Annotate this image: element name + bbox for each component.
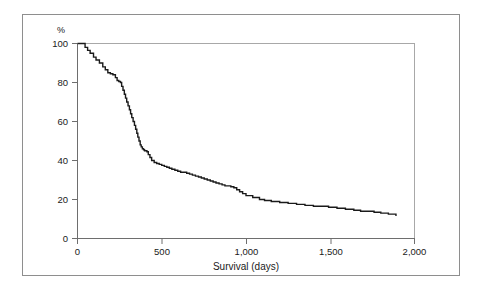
y-tick-label-0: 0	[63, 233, 68, 244]
y-axis-unit-label: %	[57, 25, 65, 35]
y-axis-tick-labels: 0 20 40 60 80 100	[52, 38, 68, 244]
y-axis-ticks	[72, 44, 78, 239]
plot-frame	[77, 43, 415, 239]
y-tick-label-100: 100	[52, 38, 68, 49]
x-tick-label-1000: 1,000	[235, 246, 259, 257]
x-tick-label-2000: 2,000	[403, 246, 427, 257]
x-axis-tick-labels: 0 500 1,000 1,500 2,000	[75, 246, 427, 257]
y-tick-label-20: 20	[57, 194, 68, 205]
survival-curve-line	[78, 44, 396, 217]
survival-chart: 0 20 40 60 80 100 % 0 500 1,000 1,500 2,…	[0, 0, 482, 293]
x-tick-label-0: 0	[75, 246, 80, 257]
y-tick-label-60: 60	[57, 116, 68, 127]
x-tick-label-1500: 1,500	[319, 246, 343, 257]
y-tick-label-40: 40	[57, 155, 68, 166]
x-tick-label-500: 500	[154, 246, 170, 257]
x-axis-title: Survival (days)	[213, 261, 279, 272]
figure-root: 0 20 40 60 80 100 % 0 500 1,000 1,500 2,…	[0, 0, 482, 293]
y-tick-label-80: 80	[57, 77, 68, 88]
x-axis-ticks	[78, 239, 415, 245]
